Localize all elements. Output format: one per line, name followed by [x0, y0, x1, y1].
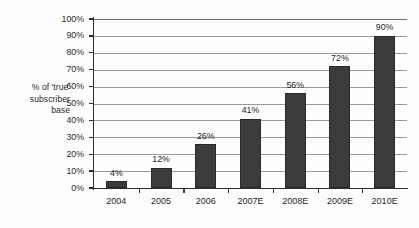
y-tick-label-10%: 10% — [50, 167, 84, 176]
bar-2006[interactable] — [195, 144, 216, 188]
x-tick-label-2008E: 2008E — [273, 196, 318, 206]
x-tick-label-2009E: 2009E — [318, 196, 363, 206]
y-tick-label-40%: 40% — [50, 116, 84, 125]
bar-value-label-2005: 12% — [139, 155, 183, 164]
y-tick-label-70%: 70% — [50, 65, 84, 74]
y-tick-mark-20% — [89, 154, 94, 155]
y-tick-mark-60% — [89, 86, 94, 87]
y-tick-mark-90% — [89, 35, 94, 36]
x-tick-mark-6 — [362, 188, 363, 193]
bar-value-label-2008E: 56% — [273, 81, 317, 90]
x-tick-mark-4 — [273, 188, 274, 193]
x-tick-label-2007E: 2007E — [228, 196, 273, 206]
x-tick-label-2004: 2004 — [94, 196, 139, 206]
y-tick-mark-80% — [89, 52, 94, 53]
bar-chart-figure: % of 'true' subscriber base 0%10%20%30%4… — [0, 0, 419, 228]
x-tick-mark-2 — [183, 188, 184, 193]
x-tick-mark-3 — [228, 188, 229, 193]
y-tick-mark-70% — [89, 69, 94, 70]
plot-area: 4%12%26%41%56%72%90% — [94, 19, 407, 188]
bar-2010E[interactable] — [374, 36, 395, 188]
bar-2007E[interactable] — [240, 119, 261, 188]
bar-value-label-2007E: 41% — [229, 106, 273, 115]
y-tick-mark-0% — [89, 187, 94, 188]
bar-2008E[interactable] — [285, 93, 306, 188]
y-tick-label-50%: 50% — [50, 99, 84, 108]
y-tick-mark-10% — [89, 170, 94, 171]
y-tick-label-80%: 80% — [50, 48, 84, 57]
x-tick-label-2010E: 2010E — [362, 196, 407, 206]
y-tick-label-30%: 30% — [50, 133, 84, 142]
bar-value-label-2009E: 72% — [318, 54, 362, 63]
bar-value-label-2004: 4% — [94, 169, 138, 178]
bar-2009E[interactable] — [329, 66, 350, 188]
bar-value-label-2010E: 90% — [363, 23, 407, 32]
x-tick-mark-1 — [139, 188, 140, 193]
y-tick-mark-50% — [89, 103, 94, 104]
y-tick-mark-30% — [89, 137, 94, 138]
y-tick-label-0%: 0% — [50, 184, 84, 193]
y-tick-label-60%: 60% — [50, 82, 84, 91]
y-tick-label-20%: 20% — [50, 150, 84, 159]
bar-2004[interactable] — [106, 181, 127, 188]
y-tick-label-90%: 90% — [50, 31, 84, 40]
x-tick-label-2006: 2006 — [183, 196, 228, 206]
bar-value-label-2006: 26% — [184, 132, 228, 141]
y-tick-label-100%: 100% — [50, 15, 84, 24]
y-tick-mark-40% — [89, 120, 94, 121]
bar-2005[interactable] — [151, 168, 172, 188]
x-tick-mark-5 — [318, 188, 319, 193]
y-tick-mark-100% — [89, 18, 94, 19]
x-tick-label-2005: 2005 — [139, 196, 184, 206]
